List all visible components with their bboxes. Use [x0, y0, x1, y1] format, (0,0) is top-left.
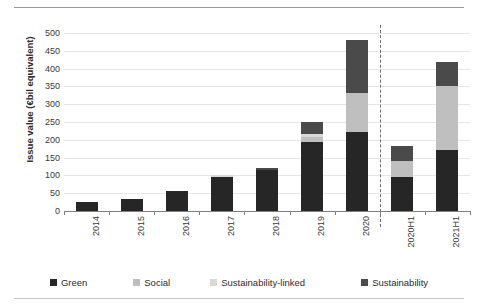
bar-segment-sustainability — [346, 40, 368, 93]
chart-legend: GreenSocialSustainability-linkedSustaina… — [0, 277, 478, 288]
legend-item-sustainability-linked[interactable]: Sustainability-linked — [210, 277, 305, 288]
bar-segment-sustainability — [301, 122, 323, 134]
bar-slot — [335, 33, 380, 211]
x-axis-tick — [425, 211, 426, 215]
bar-slot — [425, 33, 470, 211]
legend-label: Green — [61, 277, 87, 288]
bar-segment-green — [391, 177, 413, 211]
bar-slot — [109, 33, 154, 211]
bar-segment-social — [391, 161, 413, 177]
bar-segment-social — [436, 86, 458, 150]
bar-segment-green — [256, 170, 278, 211]
stacked-bar[interactable] — [436, 62, 458, 212]
x-axis-tick-label: 2021H1 — [451, 216, 461, 248]
bar-segment-green — [76, 202, 98, 211]
y-axis-tick-label: 400 — [20, 65, 60, 74]
x-axis-tick-label: 2017 — [226, 216, 236, 236]
bar-slot — [380, 33, 425, 211]
x-axis-tick — [380, 211, 381, 215]
x-axis-tick-label: 2014 — [91, 216, 101, 236]
plot-area — [64, 33, 470, 211]
stacked-bar[interactable] — [391, 146, 413, 211]
bar-segment-green — [166, 191, 188, 211]
x-axis-tick-label: 2019 — [316, 216, 326, 236]
x-axis-tick — [64, 211, 65, 215]
x-axis-tick — [199, 211, 200, 215]
stacked-bar[interactable] — [121, 199, 143, 211]
y-axis-tick-label: 150 — [20, 154, 60, 163]
x-axis-tick-label: 2020 — [361, 216, 371, 236]
bar-segment-sustainability — [436, 62, 458, 87]
legend-label: Sustainability — [372, 277, 428, 288]
stacked-bar[interactable] — [166, 191, 188, 211]
y-axis-tick-label: 0 — [20, 207, 60, 216]
x-axis-line — [64, 211, 470, 212]
x-axis-tick — [335, 211, 336, 215]
y-axis-tick-label: 250 — [20, 118, 60, 127]
x-axis-tick-label: 2016 — [181, 216, 191, 236]
stacked-bar-chart: Issue value (€bil equivalent) 0501001502… — [0, 20, 478, 275]
legend-swatch-icon — [210, 279, 217, 286]
top-divider-rule — [14, 7, 464, 8]
bar-slot — [64, 33, 109, 211]
stacked-bar[interactable] — [301, 122, 323, 211]
period-divider-line — [380, 25, 381, 227]
x-axis-tick-label: 2020H1 — [406, 216, 416, 248]
legend-swatch-icon — [133, 279, 140, 286]
bar-segment-green — [121, 199, 143, 211]
bar-segment-green — [436, 150, 458, 211]
y-axis-tick-label: 500 — [20, 29, 60, 38]
bar-segment-social — [346, 93, 368, 132]
y-axis-tick-label: 50 — [20, 189, 60, 198]
y-axis-tick-label: 350 — [20, 82, 60, 91]
bar-slot — [154, 33, 199, 211]
x-axis-tick — [244, 211, 245, 215]
bottom-divider-rule — [14, 298, 464, 299]
stacked-bar[interactable] — [211, 175, 233, 211]
stacked-bar[interactable] — [256, 168, 278, 211]
legend-label: Social — [144, 277, 170, 288]
bar-slot — [244, 33, 289, 211]
bar-segment-green — [211, 177, 233, 211]
bar-segment-sustainability — [391, 146, 413, 161]
legend-item-sustainability[interactable]: Sustainability — [361, 277, 428, 288]
bar-segment-green — [346, 132, 368, 211]
y-axis-tick-label: 300 — [20, 100, 60, 109]
stacked-bar[interactable] — [346, 40, 368, 211]
bar-slot — [199, 33, 244, 211]
y-axis-tick-label: 450 — [20, 47, 60, 56]
x-axis-tick — [109, 211, 110, 215]
x-axis-tick — [470, 211, 471, 215]
stacked-bar[interactable] — [76, 202, 98, 211]
legend-label: Sustainability-linked — [221, 277, 305, 288]
y-axis-tick-labels: 050100150200250300350400450500 — [14, 33, 60, 211]
y-axis-tick-label: 100 — [20, 171, 60, 180]
x-axis-tick-label: 2018 — [271, 216, 281, 236]
bar-segment-green — [301, 142, 323, 211]
bar-slot — [290, 33, 335, 211]
legend-swatch-icon — [50, 279, 57, 286]
legend-item-social[interactable]: Social — [133, 277, 170, 288]
x-axis-tick — [290, 211, 291, 215]
legend-swatch-icon — [361, 279, 368, 286]
y-axis-tick-label: 200 — [20, 136, 60, 145]
legend-item-green[interactable]: Green — [50, 277, 87, 288]
x-axis-tick — [154, 211, 155, 215]
x-axis-tick-label: 2015 — [136, 216, 146, 236]
